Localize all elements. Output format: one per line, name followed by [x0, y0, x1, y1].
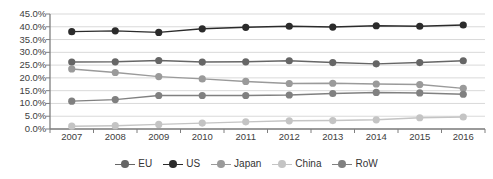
data-point — [68, 58, 75, 65]
y-tick-label: 35.0% — [20, 35, 46, 45]
data-point — [242, 24, 249, 31]
data-point — [155, 29, 162, 36]
data-point — [416, 89, 423, 96]
legend-marker-icon — [332, 159, 352, 169]
x-tick-label: 2016 — [453, 132, 474, 142]
data-point — [286, 80, 293, 87]
line-chart: 0.0%5.0%10.0%15.0%20.0%25.0%30.0%35.0%40… — [0, 0, 493, 179]
legend-marker-icon — [163, 159, 183, 169]
data-point — [373, 116, 380, 123]
y-tick-label: 40.0% — [20, 22, 46, 32]
data-point — [329, 23, 336, 30]
data-point — [155, 73, 162, 80]
data-point — [68, 65, 75, 72]
y-axis: 0.0%5.0%10.0%15.0%20.0%25.0%30.0%35.0%40… — [0, 0, 48, 136]
legend-item-eu[interactable]: EU — [115, 159, 152, 169]
y-tick-label: 25.0% — [20, 60, 46, 70]
plot-svg — [50, 14, 485, 129]
series-us — [68, 21, 467, 36]
series-japan — [68, 65, 467, 92]
data-point — [460, 21, 467, 28]
x-tick-label: 2011 — [236, 132, 256, 142]
legend-label: RoW — [355, 159, 377, 169]
legend-item-china[interactable]: China — [272, 159, 321, 169]
data-point — [329, 80, 336, 87]
series-eu — [68, 57, 467, 68]
data-point — [242, 58, 249, 65]
series-row — [68, 89, 467, 105]
y-tick-label: 20.0% — [20, 73, 46, 83]
legend-marker-icon — [211, 159, 231, 169]
data-point — [373, 22, 380, 29]
data-point — [286, 57, 293, 64]
legend-item-japan[interactable]: Japan — [211, 159, 261, 169]
data-point — [329, 59, 336, 66]
data-point — [460, 113, 467, 120]
data-point — [460, 57, 467, 64]
y-tick-label: 5.0% — [25, 111, 46, 121]
data-point — [286, 117, 293, 124]
series-line — [72, 61, 464, 64]
legend-item-us[interactable]: US — [163, 159, 200, 169]
data-point — [68, 98, 75, 105]
data-point — [416, 114, 423, 121]
data-point — [112, 96, 119, 103]
y-tick-label: 0.0% — [25, 124, 46, 134]
data-point — [199, 75, 206, 82]
data-point — [155, 92, 162, 99]
x-tick-label: 2009 — [148, 132, 169, 142]
data-point — [329, 117, 336, 124]
legend-marker-icon — [272, 159, 292, 169]
legend-item-row[interactable]: RoW — [332, 159, 377, 169]
legend-label: China — [295, 159, 321, 169]
series-line — [72, 117, 464, 126]
legend-label: US — [186, 159, 200, 169]
y-tick-label: 45.0% — [20, 9, 46, 19]
data-point — [329, 90, 336, 97]
data-point — [460, 91, 467, 98]
series-line — [72, 69, 464, 88]
legend-marker-icon — [115, 159, 135, 169]
y-tick-label: 10.0% — [20, 99, 46, 109]
data-point — [286, 91, 293, 98]
x-tick-label: 2010 — [192, 132, 213, 142]
data-point — [373, 80, 380, 87]
data-point — [112, 69, 119, 76]
data-point — [373, 89, 380, 96]
data-point — [155, 121, 162, 128]
data-point — [242, 92, 249, 99]
legend-label: Japan — [234, 159, 261, 169]
data-point — [68, 123, 75, 130]
data-point — [199, 120, 206, 127]
data-point — [155, 57, 162, 64]
x-tick-label: 2007 — [61, 132, 82, 142]
legend-label: EU — [138, 159, 152, 169]
data-point — [199, 25, 206, 32]
x-tick-label: 2013 — [322, 132, 343, 142]
x-tick-label: 2015 — [409, 132, 430, 142]
chart-legend: EUUSJapanChinaRoW — [0, 155, 493, 173]
data-point — [242, 118, 249, 125]
data-point — [416, 81, 423, 88]
x-tick-label: 2012 — [279, 132, 300, 142]
data-point — [416, 59, 423, 66]
y-tick-label: 30.0% — [20, 48, 46, 58]
data-point — [373, 60, 380, 67]
series-line — [72, 25, 464, 32]
x-axis: 2007200820092010201120122013201420152016 — [50, 132, 485, 150]
data-point — [286, 23, 293, 30]
y-tick-label: 15.0% — [20, 86, 46, 96]
x-tick-label: 2014 — [366, 132, 387, 142]
series-line — [72, 92, 464, 101]
x-tick-label: 2008 — [105, 132, 126, 142]
data-point — [112, 122, 119, 129]
data-point — [68, 28, 75, 35]
data-point — [416, 23, 423, 30]
data-point — [112, 27, 119, 34]
data-point — [199, 58, 206, 65]
data-point — [112, 58, 119, 65]
data-point — [242, 78, 249, 85]
plot-area — [50, 14, 485, 129]
data-point — [199, 92, 206, 99]
